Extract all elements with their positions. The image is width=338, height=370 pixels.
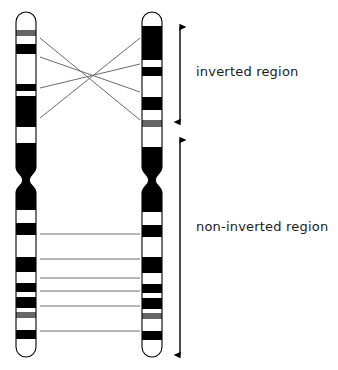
chromosome-band-gray [14,30,38,36]
chromosome-band-dark [14,44,38,54]
chromosome-band-dark [140,67,164,76]
chromosome-band-gray [140,120,164,127]
chromosome-band-dark [140,257,164,273]
diagram-background [0,0,338,370]
chromosome-band-dark [140,225,164,237]
chromosome-band-dark [14,96,38,127]
chromosome-band-gray [14,312,38,318]
chromosome-band-dark [14,283,38,292]
chromosome-band-dark [14,297,38,308]
chromosome-band-dark [140,331,164,340]
chromosome-band-dark [14,330,38,339]
inverted-region-label: inverted region [196,64,298,79]
chromosome-band-dark [140,26,164,60]
chromosome-band-dark [14,223,38,235]
non-inverted-region-label: non-inverted region [196,219,328,234]
chromosome-band-dark [14,84,38,91]
chromosome-band-dark [140,97,164,110]
chromosome-band-dark [140,284,164,293]
chromosome-inversion-diagram [0,0,338,370]
chromosome-band-dark [140,298,164,309]
chromosome-band-dark [14,257,38,272]
chromosome-band-gray [140,313,164,319]
